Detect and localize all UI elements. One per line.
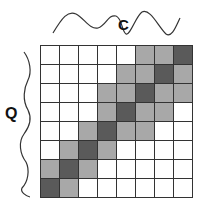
matrix-cell (155, 141, 174, 160)
matrix-cell (98, 179, 117, 198)
matrix-cell (136, 122, 155, 141)
matrix-cell (41, 65, 60, 84)
matrix-cell (41, 84, 60, 103)
matrix-cell (117, 46, 136, 65)
matrix-cell (117, 103, 136, 122)
matrix-cell (98, 103, 117, 122)
matrix-cell (41, 122, 60, 141)
matrix-cell (174, 65, 193, 84)
matrix-cell (79, 122, 98, 141)
matrix-cell (174, 122, 193, 141)
matrix-cell (41, 141, 60, 160)
matrix-cell (174, 179, 193, 198)
matrix-cell (136, 46, 155, 65)
matrix-cell (98, 84, 117, 103)
matrix-cell (79, 84, 98, 103)
matrix-cell (60, 84, 79, 103)
matrix-cell (117, 141, 136, 160)
matrix-cell (174, 46, 193, 65)
top-wavy-brace (53, 11, 180, 34)
matrix-cell (136, 84, 155, 103)
matrix-cell (98, 141, 117, 160)
left-wavy-brace (20, 52, 30, 197)
matrix-cell (41, 46, 60, 65)
matrix-cell (155, 46, 174, 65)
matrix-cell (41, 103, 60, 122)
matrix-cell (155, 122, 174, 141)
matrix-cell (136, 65, 155, 84)
matrix-cell (60, 160, 79, 179)
matrix-cell (79, 103, 98, 122)
label-q: Q (5, 105, 17, 123)
matrix-cell (60, 103, 79, 122)
matrix-cell (136, 160, 155, 179)
matrix-cell (60, 179, 79, 198)
matrix-cell (174, 84, 193, 103)
matrix-cell (60, 122, 79, 141)
matrix-cell (117, 122, 136, 141)
matrix-cell (155, 65, 174, 84)
matrix-cell (155, 84, 174, 103)
matrix-cell (174, 160, 193, 179)
matrix-cell (117, 84, 136, 103)
matrix-cell (98, 46, 117, 65)
matrix-cell (79, 160, 98, 179)
matrix-cell (136, 103, 155, 122)
matrix-cell (155, 103, 174, 122)
matrix-cell (174, 141, 193, 160)
matrix-cell (79, 65, 98, 84)
matrix-cell (41, 160, 60, 179)
matrix-cell (117, 160, 136, 179)
matrix-cell (155, 160, 174, 179)
label-c: C (118, 16, 129, 33)
matrix-cell (117, 65, 136, 84)
matrix-cell (174, 103, 193, 122)
matrix-cell (136, 179, 155, 198)
matrix-cell (98, 122, 117, 141)
matrix-cell (79, 179, 98, 198)
matrix-cell (155, 179, 174, 198)
matrix-cell (60, 46, 79, 65)
matrix-cell (79, 141, 98, 160)
matrix-grid (40, 45, 193, 198)
matrix-cell (98, 65, 117, 84)
matrix-cell (60, 141, 79, 160)
matrix-cell (117, 179, 136, 198)
matrix-cell (41, 179, 60, 198)
matrix-cell (136, 141, 155, 160)
matrix-cell (60, 65, 79, 84)
matrix-cell (98, 160, 117, 179)
matrix-cell (79, 46, 98, 65)
